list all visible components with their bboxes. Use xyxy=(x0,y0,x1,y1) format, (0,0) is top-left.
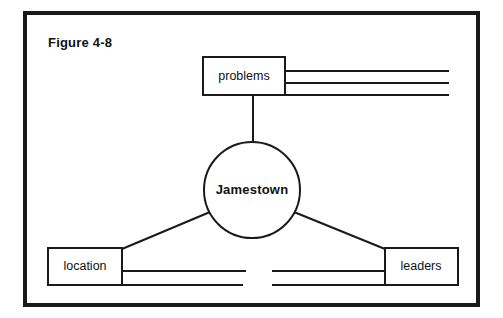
node-leaders-label: leaders xyxy=(401,259,442,273)
node-jamestown[interactable]: Jamestown xyxy=(204,142,300,238)
node-problems-label: problems xyxy=(218,69,269,83)
figure-canvas: problems location leaders Jamestow xyxy=(0,0,503,318)
node-problems[interactable]: problems xyxy=(203,57,285,95)
concept-web-diagram: problems location leaders Jamestow xyxy=(0,0,503,318)
node-jamestown-label: Jamestown xyxy=(216,182,289,197)
node-location[interactable]: location xyxy=(48,248,122,285)
figure-title: Figure 4-8 xyxy=(48,35,112,50)
node-leaders[interactable]: leaders xyxy=(385,248,458,285)
node-location-label: location xyxy=(63,259,106,273)
